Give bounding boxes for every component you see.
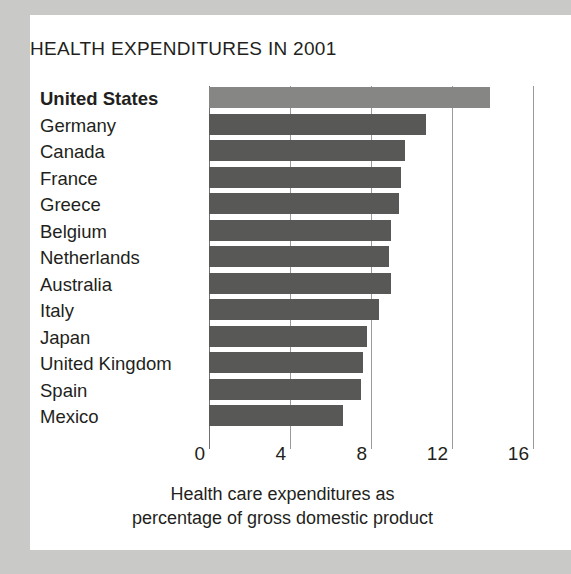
bar-australia[interactable] — [209, 273, 391, 294]
tick-label-16: 16 — [508, 443, 533, 465]
bar-mexico[interactable] — [209, 405, 343, 426]
bar-row — [179, 298, 509, 325]
bar-italy[interactable] — [209, 299, 379, 320]
category-label-belgium: Belgium — [40, 219, 180, 246]
bar-row — [179, 139, 509, 166]
category-label-spain: Spain — [40, 378, 180, 405]
bar-row — [179, 272, 509, 299]
category-label-mexico: Mexico — [40, 404, 180, 431]
category-label-france: France — [40, 166, 180, 193]
bar-united-states[interactable] — [209, 87, 490, 108]
tick-mark-4 — [290, 431, 291, 449]
bar-netherlands[interactable] — [209, 246, 389, 267]
category-label-germany: Germany — [40, 113, 180, 140]
bar-row — [179, 245, 509, 272]
tick-label-0: 0 — [194, 443, 209, 465]
x-axis: 0481216 — [179, 431, 509, 461]
tick-label-8: 8 — [356, 443, 371, 465]
tick-mark-12 — [452, 431, 453, 449]
category-label-greece: Greece — [40, 192, 180, 219]
bar-canada[interactable] — [209, 140, 405, 161]
bar-row — [179, 192, 509, 219]
bar-spain[interactable] — [209, 379, 361, 400]
category-label-italy: Italy — [40, 298, 180, 325]
bar-row — [179, 166, 509, 193]
tick-mark-16 — [533, 431, 534, 449]
plot-area — [179, 86, 509, 431]
tick-mark-0 — [209, 431, 210, 449]
caption-line-2: percentage of gross domestic product — [30, 506, 535, 530]
bar-row — [179, 219, 509, 246]
caption-line-1: Health care expenditures as — [30, 482, 535, 506]
bar-belgium[interactable] — [209, 220, 391, 241]
category-label-canada: Canada — [40, 139, 180, 166]
bar-germany[interactable] — [209, 114, 426, 135]
bar-japan[interactable] — [209, 326, 367, 347]
chart-title: HEALTH EXPENDITURES IN 2001 — [30, 38, 337, 60]
category-label-japan: Japan — [40, 325, 180, 352]
tick-label-12: 12 — [427, 443, 452, 465]
tick-mark-8 — [371, 431, 372, 449]
bar-greece[interactable] — [209, 193, 399, 214]
bar-row — [179, 351, 509, 378]
category-label-united-kingdom: United Kingdom — [40, 351, 180, 378]
bar-row — [179, 113, 509, 140]
axis-caption: Health care expenditures as percentage o… — [30, 482, 535, 530]
bar-rows — [179, 86, 509, 431]
bar-row — [179, 404, 509, 431]
category-labels: United StatesGermanyCanadaFranceGreeceBe… — [40, 86, 180, 431]
gridline-16 — [533, 86, 534, 431]
chart-figure: HEALTH EXPENDITURES IN 2001 United State… — [0, 0, 571, 574]
tick-label-4: 4 — [275, 443, 290, 465]
category-label-australia: Australia — [40, 272, 180, 299]
bar-row — [179, 325, 509, 352]
bar-united-kingdom[interactable] — [209, 352, 363, 373]
bar-france[interactable] — [209, 167, 401, 188]
bar-row — [179, 378, 509, 405]
bar-row — [179, 86, 509, 113]
category-label-united-states: United States — [40, 86, 180, 113]
category-label-netherlands: Netherlands — [40, 245, 180, 272]
